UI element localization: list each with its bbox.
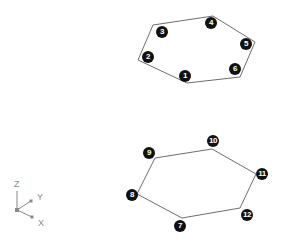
point-label-badge: 11 — [256, 168, 268, 180]
point-label-badge: 6 — [229, 63, 241, 75]
point-label-badge: 10 — [207, 135, 219, 147]
point-label-badge: 5 — [240, 38, 252, 50]
x-arrow-icon — [31, 216, 34, 219]
point-label-badge: 3 — [156, 26, 168, 38]
point-label-badge: 1 — [179, 70, 191, 82]
y-axis-line — [17, 201, 31, 210]
y-axis-label: Y — [37, 193, 43, 202]
point-label-badge: 8 — [126, 189, 138, 201]
point-label-badge: 7 — [174, 220, 186, 232]
lower-hexagon-outline — [137, 149, 256, 218]
point-label-badge: 4 — [205, 17, 217, 29]
point-label-badge: 2 — [142, 51, 154, 63]
point-label-badge: 9 — [143, 147, 155, 159]
x-axis-label: X — [38, 219, 44, 228]
origin-marker-icon — [15, 208, 19, 212]
z-axis-label: Z — [14, 180, 20, 189]
point-label-badge: 12 — [241, 209, 253, 221]
ucs-axis-icon — [15, 191, 34, 219]
y-arrow-icon — [30, 200, 33, 203]
x-axis-line — [17, 210, 32, 217]
